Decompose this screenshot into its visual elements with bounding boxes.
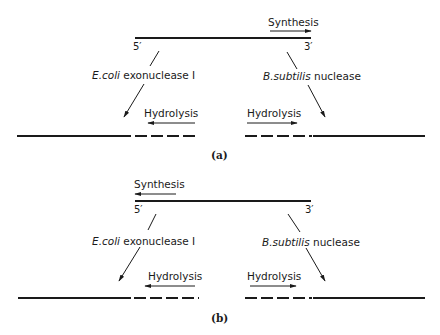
left-enzyme-connector-a [150,51,159,66]
left-enzyme-connector-b [148,214,156,230]
panel-a [17,31,425,136]
left-enzyme-arrow-b [119,247,140,281]
right-hydrolysis-label-b: Hydrolysis [247,271,301,282]
diagram-canvas [0,0,440,335]
right-enzyme-label-b: B.subtilis nuclease [262,237,360,248]
three-prime-label-b: 3′ [305,205,314,215]
five-prime-label-a: 5′ [133,42,142,52]
synthesis-label-a: Synthesis [268,17,319,28]
right-enzyme-name-b: nuclease [313,236,360,248]
right-hydrolysis-label-a: Hydrolysis [247,108,301,119]
right-enzyme-connector-a [287,52,297,69]
right-enzyme-connector-b [288,214,300,232]
left-hydrolysis-label-a: Hydrolysis [144,108,198,119]
right-enzyme-label-a: B.subtilis nuclease [263,71,361,82]
panel-b [18,194,425,298]
left-enzyme-arrow-a [124,84,144,117]
right-enzyme-arrow-a [308,85,325,117]
left-enzyme-organism-a: E.coli [92,69,120,81]
synthesis-label-b: Synthesis [134,179,185,190]
left-enzyme-name-b: exonuclease I [123,235,195,247]
panel-caption-b: (b) [211,313,228,324]
left-enzyme-name-a: exonuclease I [123,69,195,81]
left-enzyme-organism-b: E.coli [92,235,120,247]
left-enzyme-label-a: E.coli exonuclease I [92,70,195,81]
right-enzyme-name-a: nuclease [314,70,361,82]
right-enzyme-organism-a: B.subtilis [263,70,311,82]
left-enzyme-label-b: E.coli exonuclease I [92,236,195,247]
panel-caption-a: (a) [211,150,228,161]
left-hydrolysis-label-b: Hydrolysis [148,271,202,282]
right-enzyme-organism-b: B.subtilis [262,236,310,248]
five-prime-label-b: 5′ [134,205,143,215]
three-prime-label-a: 3′ [304,42,313,52]
right-enzyme-arrow-b [306,248,325,281]
